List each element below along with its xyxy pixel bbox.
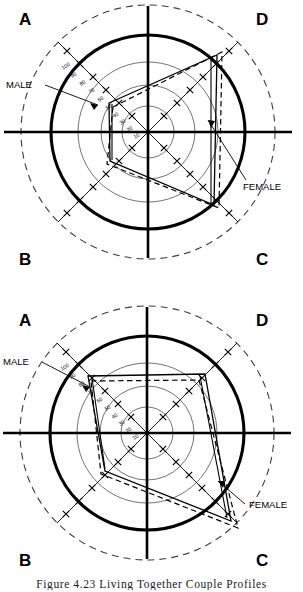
quadrant-label-b: B	[19, 551, 31, 570]
scale-label-60: 60	[96, 95, 104, 103]
scale-label-50: 50	[103, 404, 111, 412]
quadrant-label-a: A	[19, 311, 31, 330]
female-leader	[208, 120, 246, 180]
female-label: FEMALE	[249, 499, 287, 510]
couple-profile-chart-bottom: 100 90 80 70 60 50 40 30 20 10 MALE	[0, 296, 303, 592]
figure-page: 100 90 80 70 60 50 40 30 20 10	[0, 0, 303, 592]
figure-caption: Figure 4.23 Living Together Couple Profi…	[0, 578, 303, 590]
female-label: FEMALE	[243, 181, 281, 192]
quadrant-label-a: A	[19, 10, 31, 29]
female-profile-polygon	[91, 380, 238, 528]
couple-profile-chart-top: 100 90 80 70 60 50 40 30 20 10	[0, 0, 303, 296]
quadrant-label-d: D	[256, 311, 268, 330]
scale-label-80: 80	[78, 79, 86, 87]
scale-label-100: 100	[59, 362, 70, 372]
scale-label-100: 100	[60, 61, 71, 71]
scale-label-70: 70	[87, 87, 95, 95]
quadrant-label-c: C	[256, 551, 268, 570]
scale-label-40: 40	[110, 412, 118, 420]
quadrant-label-b: B	[19, 250, 31, 269]
male-label: MALE	[6, 79, 32, 90]
male-label: MALE	[3, 356, 29, 367]
scale-label-60: 60	[95, 396, 103, 404]
quadrant-label-c: C	[256, 250, 268, 269]
radial-scale-labels-top: 100 90 80 70 60 50 40 30 20 10	[60, 61, 140, 140]
polar-chart-svg-bottom: 100 90 80 70 60 50 40 30 20 10 MALE	[0, 296, 303, 592]
male-profile-polygon	[109, 55, 217, 205]
quadrant-label-d: D	[256, 10, 268, 29]
polar-chart-svg-top: 100 90 80 70 60 50 40 30 20 10	[0, 0, 303, 296]
